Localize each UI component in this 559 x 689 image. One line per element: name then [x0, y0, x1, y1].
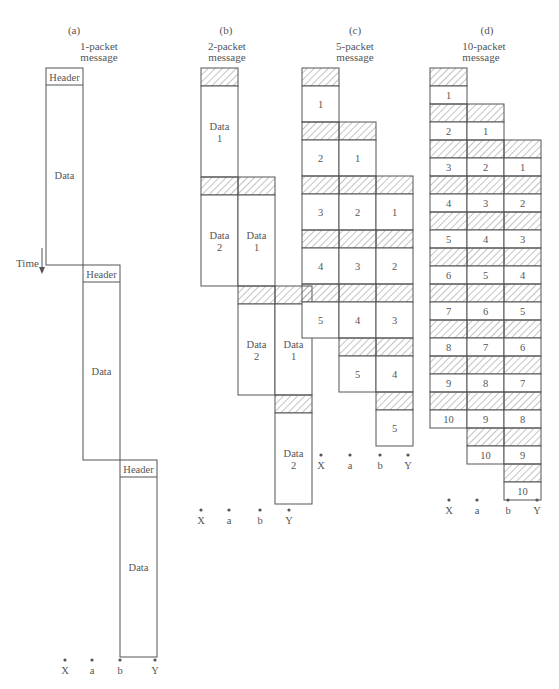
packet-box [120, 460, 157, 657]
node-dot-icon [506, 498, 509, 501]
packet-data-cell [238, 195, 275, 286]
packet-number: 10 [443, 414, 454, 425]
packet-header-hatched [467, 428, 504, 446]
node-dot-icon [348, 453, 351, 456]
panel-c-diagram: 121321432543545 [302, 68, 413, 446]
packet-number: 2 [254, 351, 259, 362]
packet-header-hatched [430, 68, 467, 86]
packet-number: 8 [483, 378, 488, 389]
packet-header-hatched [504, 248, 541, 266]
packet-number: 9 [483, 414, 488, 425]
packet-number: 8 [446, 342, 451, 353]
packet-number: 5 [446, 234, 451, 245]
packet-number: 6 [483, 306, 488, 317]
packet-data-cell [201, 195, 238, 286]
packet-number: 10 [480, 450, 491, 461]
packet-number: 1 [355, 153, 360, 164]
packet-number: 6 [446, 270, 451, 281]
packet-number: 1 [520, 162, 525, 173]
header-label: Header [49, 72, 80, 83]
packet-header-hatched [201, 177, 238, 195]
node-dot-icon [199, 508, 202, 511]
packet-number: 2 [291, 460, 296, 471]
packet-box [46, 68, 83, 265]
packet-header-hatched [467, 392, 504, 410]
packet-header-hatched [339, 338, 376, 356]
packet-number: 5 [520, 306, 525, 317]
packet-number: 4 [446, 198, 452, 209]
packet-header-hatched [467, 212, 504, 230]
packet-number: 4 [520, 270, 526, 281]
packet-header-hatched [376, 338, 413, 356]
node-dot-icon [118, 658, 121, 661]
node-label: b [505, 505, 510, 516]
packet-number: 1 [318, 99, 323, 110]
packet-header-hatched [275, 395, 312, 413]
packet-data-cell [238, 304, 275, 395]
packet-number: 4 [318, 261, 324, 272]
packet-header-hatched [430, 104, 467, 122]
header-label: Header [86, 269, 117, 280]
node-label: a [348, 460, 353, 471]
packet-switching-diagram: (a) 1-packet message (b) 2-packet messag… [0, 0, 559, 689]
node-label: X [197, 515, 205, 526]
packet-header-hatched [467, 140, 504, 158]
diagram-canvas: HeaderDataHeaderDataHeaderData Data1Data… [0, 0, 559, 689]
packet-number: Data [284, 339, 304, 350]
packet-header-hatched [430, 248, 467, 266]
packet-header-hatched [430, 212, 467, 230]
packet-number: 5 [392, 423, 397, 434]
packet-number: Data [247, 339, 267, 350]
node-dot-icon [153, 658, 156, 661]
packet-header-hatched [467, 320, 504, 338]
packet-header-hatched [376, 230, 413, 248]
node-dot-icon [287, 508, 290, 511]
packet-number: Data [284, 448, 304, 459]
packet-header-hatched [430, 176, 467, 194]
packet-number: 3 [483, 198, 488, 209]
packet-number: 2 [217, 242, 222, 253]
packet-header-hatched [339, 284, 376, 302]
node-label: X [445, 505, 453, 516]
packet-header-hatched [504, 212, 541, 230]
packet-number: 9 [520, 450, 525, 461]
packet-number: 5 [355, 369, 360, 380]
packet-number: 4 [483, 234, 489, 245]
packet-header-hatched [339, 230, 376, 248]
node-label: a [90, 665, 95, 676]
packet-header-hatched [504, 140, 541, 158]
packet-data-cell [275, 413, 312, 504]
node-label: b [257, 515, 262, 526]
packet-data-cell [201, 86, 238, 177]
node-label: b [117, 665, 122, 676]
packet-header-hatched [504, 392, 541, 410]
packet-number: 8 [520, 414, 525, 425]
packet-header-hatched [467, 284, 504, 302]
packet-header-hatched [467, 176, 504, 194]
packet-number: 3 [520, 234, 525, 245]
node-label: X [317, 460, 325, 471]
packet-number: 5 [483, 270, 488, 281]
node-dot-icon [227, 508, 230, 511]
data-label: Data [55, 170, 75, 181]
node-dot-icon [406, 453, 409, 456]
packet-number: 7 [446, 306, 451, 317]
data-label: Data [92, 366, 112, 377]
packet-header-hatched [430, 320, 467, 338]
packet-number: 3 [318, 207, 323, 218]
packet-number: 3 [392, 315, 397, 326]
packet-header-hatched [467, 248, 504, 266]
packet-header-hatched [376, 392, 413, 410]
packet-header-hatched [504, 356, 541, 374]
node-label: a [475, 505, 480, 516]
packet-header-hatched [504, 284, 541, 302]
node-label: X [61, 665, 69, 676]
packet-header-hatched [339, 176, 376, 194]
packet-number: Data [210, 121, 230, 132]
node-label: b [377, 460, 382, 471]
packet-number: 4 [355, 315, 361, 326]
packet-header-hatched [504, 464, 541, 482]
packet-header-hatched [302, 122, 339, 140]
node-dot-icon [475, 498, 478, 501]
packet-number: Data [210, 230, 230, 241]
